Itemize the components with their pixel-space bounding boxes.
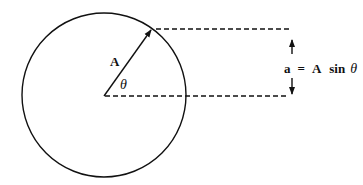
equation-function: sin — [329, 61, 346, 76]
vector-a-label: A — [110, 54, 120, 69]
phasor-diagram: A θ a = A sin θ — [0, 0, 363, 185]
equation-variable: θ — [350, 61, 357, 76]
equation-lhs: a — [284, 61, 291, 76]
equation-coefficient: A — [312, 61, 322, 76]
angle-theta-label: θ — [120, 77, 127, 92]
equation-label: a = A sin θ — [284, 59, 357, 76]
equation-equals: = — [298, 61, 305, 76]
